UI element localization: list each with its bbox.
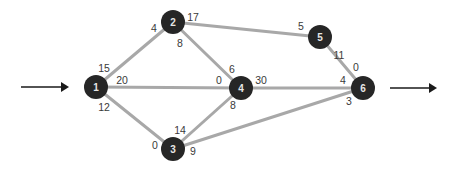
node-label: 6: [360, 83, 366, 94]
node-6: 6: [351, 76, 375, 100]
edge-3-4: [173, 88, 241, 149]
edge-1-2: [96, 22, 173, 87]
edge-2-4: [173, 22, 241, 88]
output-arrow: [390, 83, 437, 93]
input-arrow: [21, 82, 69, 92]
edge-value-label: 0: [353, 61, 359, 73]
edge-value-label: 0: [216, 74, 222, 86]
edge-value-label: 0: [152, 139, 158, 151]
network-diagram: 123456 1520124178063081409511043: [0, 0, 457, 172]
edge-value-label: 20: [116, 74, 128, 86]
edge-value-label: 6: [229, 63, 235, 75]
arrow-right-icon: [61, 82, 69, 92]
node-1: 1: [84, 75, 108, 99]
edge-1-4: [96, 87, 241, 88]
node-5: 5: [308, 25, 332, 49]
edge-value-label: 17: [187, 11, 199, 23]
edge-value-label: 11: [334, 49, 345, 61]
node-3: 3: [161, 137, 185, 161]
edge-value-label: 12: [98, 101, 110, 113]
arrow-right-icon: [429, 83, 437, 93]
node-label: 1: [93, 82, 99, 93]
edge-value-label: 8: [230, 99, 236, 111]
node-label: 5: [317, 32, 323, 43]
node-label: 4: [238, 83, 244, 94]
node-2: 2: [161, 10, 185, 34]
edge-value-label: 9: [190, 145, 196, 157]
edge-value-label: 15: [98, 62, 110, 74]
edge-value-label: 14: [174, 124, 186, 136]
edge-value-label: 4: [340, 74, 346, 86]
edge-value-label: 30: [255, 74, 267, 86]
edge-3-6: [173, 88, 363, 149]
node-label: 2: [170, 17, 176, 28]
node-4: 4: [229, 76, 253, 100]
edge-value-label: 5: [298, 20, 304, 32]
edge-value-label: 4: [151, 22, 157, 34]
edge-value-label: 3: [346, 95, 352, 107]
node-label: 3: [170, 144, 176, 155]
edge-1-3: [96, 87, 173, 149]
edge-value-label: 8: [177, 37, 183, 49]
